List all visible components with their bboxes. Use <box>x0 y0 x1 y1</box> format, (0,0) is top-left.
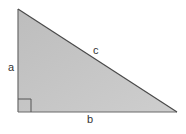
side-c-label: c <box>93 45 99 56</box>
side-a-label: a <box>8 62 14 73</box>
side-b-label: b <box>87 114 93 125</box>
right-triangle-diagram: a b c <box>0 0 186 134</box>
